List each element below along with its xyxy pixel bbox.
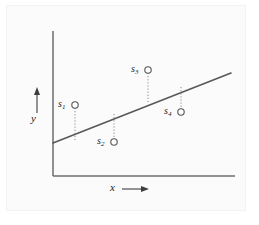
x-axis-label: x [110, 182, 115, 193]
y-axis-label: y [31, 113, 36, 124]
data-point-label-s3: s3 [131, 64, 138, 74]
data-point-label-s1-sub: 1 [62, 103, 66, 111]
data-point-label-s2-sub: 2 [101, 140, 105, 148]
data-point-s1 [72, 102, 78, 108]
right-arrow-icon [141, 186, 149, 192]
figure-container: y x s1 s2 s3 s4 [0, 0, 259, 225]
data-point-s4 [178, 109, 184, 115]
plot-canvas [0, 0, 259, 225]
data-point-label-s2: s2 [97, 136, 104, 146]
data-point-label-s1: s1 [58, 99, 65, 109]
data-point-s2 [111, 139, 117, 145]
data-point-label-s3-sub: 3 [135, 68, 139, 76]
regression-line [53, 73, 231, 143]
data-point-label-s4-sub: 4 [168, 110, 172, 118]
up-arrow-icon [34, 87, 40, 95]
data-point-s3 [145, 67, 151, 73]
data-point-label-s4: s4 [164, 106, 171, 116]
